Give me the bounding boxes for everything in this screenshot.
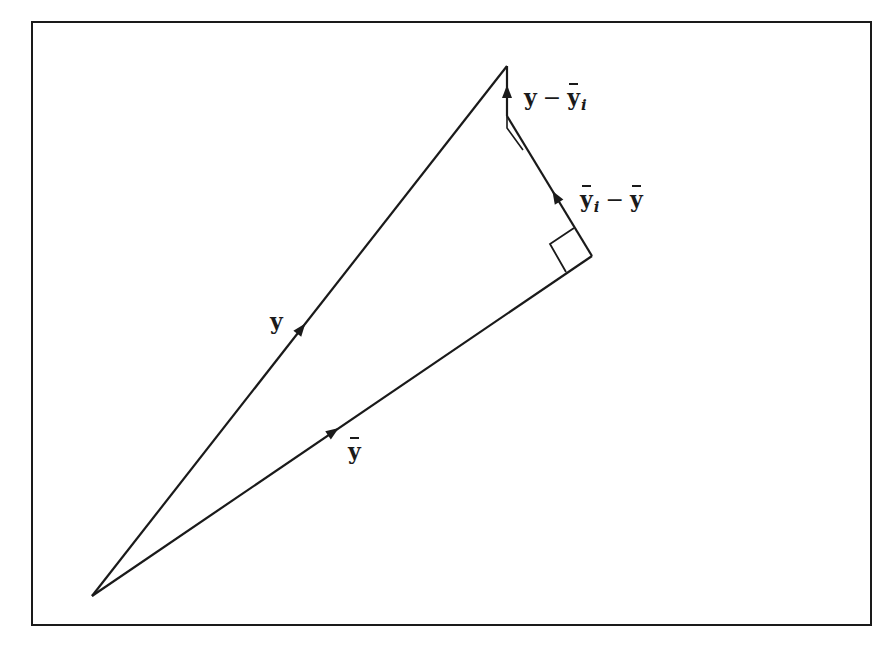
vector-ybar-line — [92, 256, 592, 596]
arrow-icon-yi-minus-ybar — [548, 188, 563, 204]
label-y-text: y — [270, 308, 283, 334]
label-yi-tail-sub: i — [581, 96, 587, 114]
label-yi-tail: y — [567, 86, 580, 108]
label-y-op: − — [543, 85, 561, 110]
label-yi-minus-ybar: yi−y — [580, 188, 643, 211]
right-angle-mark-corner — [550, 228, 574, 272]
label-yi-op: − — [606, 187, 624, 212]
label-ybar: y — [348, 440, 361, 462]
label-y-main: y — [524, 84, 537, 110]
label-y: y — [270, 310, 283, 332]
label-y-minus-yi: y−yi — [524, 86, 587, 109]
arrow-icon-y-minus-yi — [502, 85, 512, 98]
vector-diagram — [0, 0, 895, 650]
label-yi-sub: i — [594, 198, 600, 216]
label-yi-main: y — [580, 188, 593, 210]
arrow-icon-ybar — [325, 424, 341, 440]
diagram-frame — [32, 22, 871, 625]
label-ybar-tail: y — [630, 188, 643, 210]
label-ybar-text: y — [348, 440, 361, 462]
